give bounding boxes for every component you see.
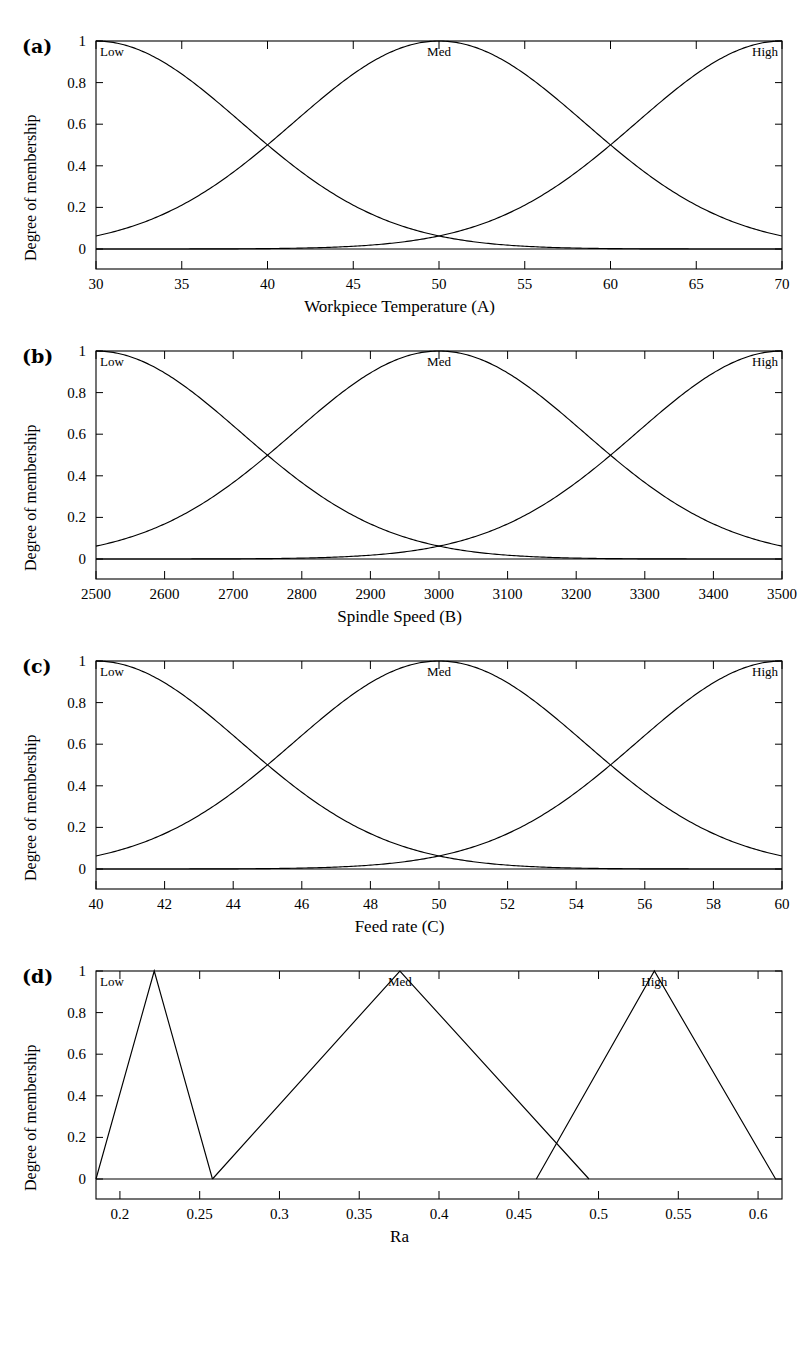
y-tick-label: 1 — [79, 33, 87, 49]
y-tick-label: 0 — [79, 1171, 87, 1187]
y-tick-label: 0.6 — [67, 1046, 86, 1062]
x-tick-label: 58 — [706, 896, 721, 912]
series-label-med: Med — [427, 44, 451, 59]
plot-frame — [96, 661, 782, 889]
series-label-high: High — [641, 974, 668, 989]
x-tick-label: 3100 — [493, 586, 523, 602]
x-tick-label: 0.25 — [187, 1206, 213, 1222]
x-tick-label: 48 — [363, 896, 378, 912]
y-axis-title: Degree of membership — [22, 114, 40, 261]
series-label-med: Med — [427, 354, 451, 369]
x-tick-label: 2700 — [218, 586, 248, 602]
x-tick-label: 2800 — [287, 586, 317, 602]
x-axis-title: Workpiece Temperature (A) — [0, 297, 799, 317]
x-tick-label: 3300 — [630, 586, 660, 602]
x-tick-label: 2600 — [150, 586, 180, 602]
panel-label: (b) — [22, 345, 53, 367]
series-label-med: Med — [388, 974, 412, 989]
x-axis-title: Ra — [0, 1227, 799, 1247]
x-tick-label: 0.3 — [270, 1206, 289, 1222]
x-tick-label: 0.6 — [749, 1206, 768, 1222]
x-tick-label: 0.45 — [506, 1206, 532, 1222]
x-tick-label: 55 — [517, 276, 532, 292]
membership-curve-low — [96, 661, 782, 869]
series-label-low: Low — [100, 44, 124, 59]
x-tick-label: 35 — [174, 276, 189, 292]
y-tick-label: 1 — [79, 343, 87, 359]
membership-curve-low — [96, 351, 782, 559]
series-label-high: High — [752, 44, 779, 59]
panel-d: (d)Degree of membership00.20.40.60.810.2… — [0, 944, 799, 1244]
x-tick-label: 50 — [432, 276, 447, 292]
membership-triangle-high — [536, 971, 775, 1179]
series-label-low: Low — [100, 354, 124, 369]
x-tick-label: 2900 — [355, 586, 385, 602]
y-tick-label: 0.8 — [67, 75, 86, 91]
y-axis-title: Degree of membership — [22, 734, 40, 881]
x-tick-label: 44 — [226, 896, 242, 912]
panel-label: (c) — [22, 655, 52, 677]
membership-triangle-med — [212, 971, 589, 1179]
plot-area: 00.20.40.60.8125002600270028002900300031… — [0, 324, 799, 624]
panel-a: (a)Degree of membership00.20.40.60.81303… — [0, 14, 799, 314]
panel-b: (b)Degree of membership00.20.40.60.81250… — [0, 324, 799, 624]
y-tick-label: 0.6 — [67, 116, 86, 132]
x-tick-label: 60 — [603, 276, 618, 292]
membership-curve-high — [96, 41, 782, 249]
y-tick-label: 0.6 — [67, 426, 86, 442]
y-tick-label: 0 — [79, 551, 87, 567]
y-tick-label: 0.4 — [67, 1088, 86, 1104]
x-tick-label: 46 — [294, 896, 310, 912]
x-tick-label: 56 — [637, 896, 653, 912]
x-tick-label: 0.4 — [430, 1206, 449, 1222]
x-tick-label: 40 — [260, 276, 275, 292]
x-tick-label: 0.5 — [589, 1206, 608, 1222]
x-tick-label: 2500 — [81, 586, 111, 602]
plot-frame — [96, 41, 782, 269]
membership-curve-high — [96, 351, 782, 559]
membership-curve-med — [96, 351, 782, 546]
plot-frame — [96, 971, 782, 1199]
x-tick-label: 70 — [775, 276, 790, 292]
membership-curve-med — [96, 41, 782, 236]
x-tick-label: 60 — [775, 896, 790, 912]
panel-label: (a) — [22, 35, 52, 57]
membership-curve-high — [96, 661, 782, 869]
x-tick-label: 52 — [500, 896, 515, 912]
y-tick-label: 0.8 — [67, 385, 86, 401]
panel-c: (c)Degree of membership00.20.40.60.81404… — [0, 634, 799, 934]
y-tick-label: 0 — [79, 241, 87, 257]
y-axis-title: Degree of membership — [22, 424, 40, 571]
series-label-low: Low — [100, 974, 124, 989]
y-tick-label: 0.8 — [67, 1005, 86, 1021]
plot-area: 00.20.40.60.810.20.250.30.350.40.450.50.… — [0, 944, 799, 1244]
y-tick-label: 0.4 — [67, 778, 86, 794]
y-tick-label: 0.2 — [67, 1129, 86, 1145]
x-tick-label: 65 — [689, 276, 704, 292]
membership-curve-med — [96, 661, 782, 856]
x-tick-label: 3400 — [698, 586, 728, 602]
x-tick-label: 50 — [432, 896, 447, 912]
x-tick-label: 30 — [89, 276, 104, 292]
x-tick-label: 40 — [89, 896, 104, 912]
x-tick-label: 45 — [346, 276, 361, 292]
y-axis-title: Degree of membership — [22, 1044, 40, 1191]
plot-frame — [96, 351, 782, 579]
y-tick-label: 0.8 — [67, 695, 86, 711]
membership-curve-low — [96, 41, 782, 249]
panel-label: (d) — [22, 965, 53, 987]
series-label-high: High — [752, 354, 779, 369]
x-tick-label: 3500 — [767, 586, 797, 602]
x-tick-label: 0.2 — [111, 1206, 130, 1222]
y-tick-label: 0.4 — [67, 468, 86, 484]
x-axis-title: Feed rate (C) — [0, 917, 799, 937]
y-tick-label: 1 — [79, 963, 87, 979]
y-tick-label: 1 — [79, 653, 87, 669]
x-axis-title: Spindle Speed (B) — [0, 607, 799, 627]
x-tick-label: 0.35 — [346, 1206, 372, 1222]
x-tick-label: 54 — [569, 896, 585, 912]
y-tick-label: 0 — [79, 861, 87, 877]
x-tick-label: 42 — [157, 896, 172, 912]
membership-triangle-low — [96, 971, 212, 1179]
y-tick-label: 0.2 — [67, 819, 86, 835]
